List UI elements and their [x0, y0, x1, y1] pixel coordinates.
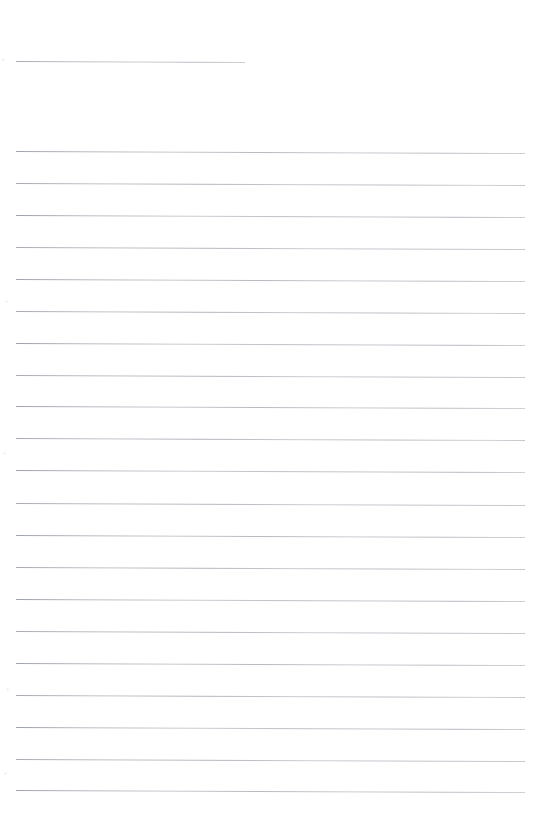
ruled-line — [16, 406, 525, 409]
header-rule — [16, 61, 245, 63]
ruled-line — [16, 247, 525, 250]
ruled-line — [16, 311, 525, 314]
paper-speckle — [6, 688, 9, 691]
ruled-line — [16, 438, 525, 441]
ruled-line — [16, 567, 525, 570]
ruled-line — [16, 151, 525, 154]
ruled-line — [16, 279, 525, 282]
ruled-line — [16, 759, 525, 762]
scanned-page — [0, 0, 541, 826]
ruled-line — [16, 790, 525, 793]
paper-speckle — [3, 452, 6, 455]
ruled-line — [16, 727, 525, 730]
paper-speckle — [5, 300, 8, 303]
paper-speckle — [2, 58, 5, 61]
ruled-line — [16, 343, 525, 346]
ruled-line — [16, 503, 525, 506]
ruled-line — [16, 663, 525, 666]
ruled-line — [16, 695, 525, 698]
ruled-line — [16, 599, 525, 602]
ruled-line — [16, 183, 525, 186]
ruled-line — [16, 535, 525, 538]
ruled-line — [16, 631, 525, 634]
paper-speckle — [4, 772, 7, 775]
ruled-line — [16, 215, 525, 218]
ruled-line — [16, 375, 525, 378]
ruled-line — [16, 470, 525, 473]
